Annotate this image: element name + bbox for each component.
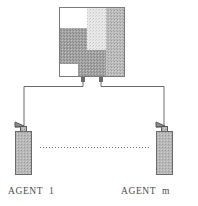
- block-bot-left-white: [59, 64, 78, 77]
- agent-m[interactable]: [156, 122, 173, 175]
- agent-1-neck: [21, 127, 27, 132]
- agent-1[interactable]: [15, 122, 32, 175]
- port-right: [99, 77, 103, 82]
- block-mid-left-dark: [59, 28, 87, 50]
- block-top-left-white: [59, 7, 87, 28]
- block-top-right-mid: [106, 7, 125, 28]
- agent-1-body: [16, 132, 32, 175]
- wire-to-agent-1: [24, 82, 83, 126]
- agent-m-body: [157, 132, 173, 175]
- connector-wires: [24, 82, 164, 126]
- block-bot-right-mid: [106, 50, 125, 77]
- block-mid-center-light: [87, 28, 106, 50]
- port-left: [81, 77, 85, 82]
- wire-to-agent-m: [101, 82, 164, 126]
- block-bot-left-dark: [59, 50, 78, 64]
- environment-blocks: [59, 7, 125, 77]
- block-top-mid-light: [87, 7, 106, 28]
- block-bot-mid-dark: [78, 50, 106, 77]
- connector-ports: [81, 77, 103, 82]
- agent-m-label: AGENT m: [121, 186, 170, 196]
- block-mid-right-mid: [106, 28, 125, 50]
- diagram-canvas: [0, 0, 198, 206]
- environment-panel: [59, 7, 125, 77]
- agent-1-label: AGENT 1: [8, 186, 54, 196]
- figure-root: AGENT 1 AGENT m: [0, 0, 198, 206]
- agent-m-neck: [162, 127, 168, 132]
